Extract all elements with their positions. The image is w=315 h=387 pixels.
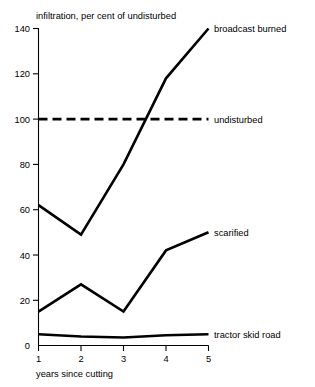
series-label-undisturbed: undisturbed: [214, 115, 263, 125]
infiltration-line-chart: infiltration, per cent of undisturbed 14…: [0, 0, 315, 387]
y-tick-label-100: 100: [14, 115, 30, 125]
y-tick-label-20: 20: [20, 296, 30, 306]
series-line-scarified: [39, 232, 209, 311]
y-tick-label-60: 60: [20, 205, 30, 215]
series-label-scarified: scarified: [214, 228, 249, 238]
y-tick-label-40: 40: [20, 251, 30, 261]
y-tick-label-80: 80: [20, 160, 30, 170]
y-tick-label-0: 0: [25, 341, 30, 351]
x-tick-label-3: 3: [121, 354, 126, 364]
chart-title: infiltration, per cent of undisturbed: [36, 11, 176, 21]
y-tick-label-140: 140: [14, 24, 30, 34]
series-line-broadcast-burned: [39, 29, 209, 235]
series-line-tractor-skid-road: [39, 334, 209, 337]
x-axis-title: years since cutting: [36, 369, 113, 379]
x-tick-label-4: 4: [163, 354, 168, 364]
series-label-tractor-skid-road: tractor skid road: [214, 330, 281, 340]
x-tick-label-2: 2: [78, 354, 83, 364]
series-label-broadcast-burned: broadcast burned: [214, 24, 286, 34]
x-tick-label-1: 1: [36, 354, 41, 364]
y-tick-label-120: 120: [14, 69, 30, 79]
x-tick-label-5: 5: [206, 354, 211, 364]
chart-canvas: infiltration, per cent of undisturbed 14…: [0, 0, 315, 387]
